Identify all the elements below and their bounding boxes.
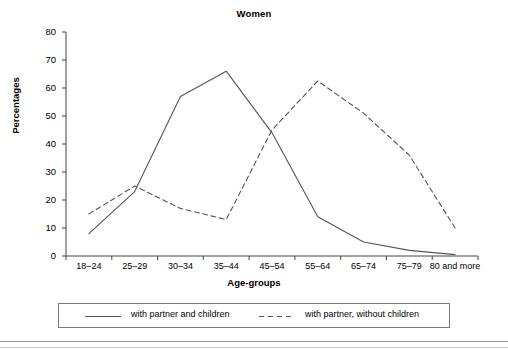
footer-divider [0,341,508,342]
y-tick-label: 30 [32,166,56,177]
x-axis-label: Age-groups [0,277,508,288]
y-tick-label: 20 [32,194,56,205]
y-tick-label: 0 [32,250,56,261]
y-tick-label: 40 [32,138,56,149]
footer-divider-secondary [0,347,508,348]
legend: with partner and children with partner, … [58,303,450,328]
legend-swatch-solid [83,315,123,317]
y-tick-label: 70 [32,54,56,65]
plot-area [0,0,508,350]
y-tick-label: 80 [32,26,56,37]
y-tick-label: 50 [32,110,56,121]
legend-label-1: with partner, without children [305,309,419,319]
x-tick-label: 80 and more [415,261,495,271]
y-tick-label: 10 [32,222,56,233]
series-line-0 [89,71,455,254]
series-line-1 [89,81,455,228]
y-tick-label: 60 [32,82,56,93]
legend-label-0: with partner and children [131,309,230,319]
chart-figure: Women Percentages 01020304050607080 18–2… [0,0,508,350]
legend-swatch-dashed [257,315,297,317]
